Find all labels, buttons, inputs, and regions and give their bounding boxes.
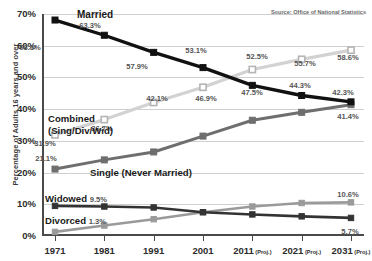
data-point-marker [52,166,58,172]
x-tick-label: 2001 [192,245,213,256]
y-tick-label: 0% [2,230,36,241]
data-point-marker [250,212,255,217]
data-point-marker [52,17,58,23]
data-value-label: 44.3% [289,81,311,90]
x-tick-mark [302,236,303,241]
data-point-marker [249,117,255,123]
y-tick-label: 30% [2,135,36,146]
x-tick-mark [104,236,105,241]
data-point-marker [151,216,156,221]
series-label-combined-line1: Combined [48,113,113,125]
data-point-marker [102,204,107,209]
y-tick-label: 40% [2,103,36,114]
data-point-marker [200,84,206,90]
x-tick-projection-note: (Proj.) [353,249,371,255]
series-label-divorced-text: Divorced [45,215,86,226]
data-point-marker [101,32,107,38]
y-tick-label: 70% [2,8,36,19]
data-value-label: 47.5% [241,88,263,97]
data-value-label: 10.6% [337,190,359,199]
series-label-married: Married [77,9,113,20]
data-point-marker [200,133,206,139]
data-value-label: 52.5% [246,52,268,61]
data-point-marker [299,214,304,219]
data-value-label: 42.1% [146,94,168,103]
data-value-label: 57.9% [126,62,148,71]
data-point-marker [200,210,205,215]
y-tick-label: 50% [2,71,36,82]
x-tick-mark [252,236,253,241]
chart-container: Percentage of Adults 16 years and over S… [0,0,372,261]
series-value-divorced-first: 1.3% [89,217,106,226]
data-point-marker [348,200,353,205]
data-point-marker [249,66,255,72]
data-value-label: 21.1% [35,154,57,163]
x-tick-label: 1971 [44,245,65,256]
series-label-divorced: Divorced 1.3% [45,215,106,226]
series-label-widowed-text: Widowed [45,193,87,204]
series-label-combined: Combined (Sing/Div/Wid) [48,113,113,136]
x-tick-mark [154,236,155,241]
data-value-label: 58.6% [337,53,359,62]
data-point-marker [299,200,304,205]
data-value-label: 63.3% [79,21,101,30]
data-point-marker [151,49,157,55]
data-point-marker [348,215,353,220]
data-point-marker [151,205,156,210]
series-label-combined-line2: (Sing/Div/Wid) [48,125,113,137]
x-tick-mark [351,236,352,241]
x-tick-mark [55,236,56,241]
data-value-label: 42.3% [332,88,354,97]
data-value-label: 55.7% [294,59,316,68]
data-point-marker [348,99,354,105]
y-axis-title: Percentage of Adults 16 years and over [11,5,20,225]
data-point-marker [101,157,107,163]
data-value-label: 5.7% [341,227,358,236]
x-tick-label: 2021 (Proj.) [282,245,321,256]
data-value-label: 41.4% [337,112,359,121]
data-point-marker [299,93,305,99]
data-point-marker [200,65,206,71]
x-tick-label: 2031 (Proj.) [332,245,371,256]
x-tick-label: 2011 (Proj.) [233,245,271,256]
x-tick-projection-note: (Proj.) [303,249,321,255]
series-label-single: Single (Never Married) [90,167,192,178]
series-value-widowed-first: 9.5% [90,195,107,204]
x-tick-mark [203,236,204,241]
data-value-label: 46.9% [195,94,217,103]
data-value-label: 31.9% [34,139,56,148]
data-point-marker [299,109,305,115]
data-value-label: 53.1% [185,46,207,55]
x-tick-label: 1991 [143,245,164,256]
y-tick-label: 10% [2,198,36,209]
data-point-marker [250,204,255,209]
data-value-label: 68.1% [19,43,41,52]
data-point-marker [52,229,57,234]
x-tick-projection-note: (Proj.) [254,249,272,255]
y-tick-label: 20% [2,167,36,178]
x-tick-label: 1981 [94,245,115,256]
data-point-marker [151,149,157,155]
series-label-widowed: Widowed 9.5% [45,193,107,204]
